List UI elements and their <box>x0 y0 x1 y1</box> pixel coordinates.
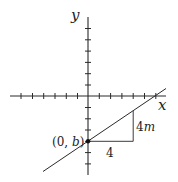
point-label-close: ) <box>80 135 85 149</box>
coordinate-plane-diagram: y x (0, b) 4 4m <box>0 0 178 182</box>
point-label: (0, b) <box>52 135 84 149</box>
rise-label-var: m <box>144 120 155 134</box>
point-label-open: (0, <box>52 135 72 149</box>
y-intercept-point <box>86 139 90 143</box>
x-axis-label: x <box>158 96 167 114</box>
run-label: 4 <box>106 146 114 160</box>
rise-label: 4m <box>136 120 155 134</box>
point-label-var: b <box>72 135 80 149</box>
y-axis-label: y <box>70 6 80 24</box>
